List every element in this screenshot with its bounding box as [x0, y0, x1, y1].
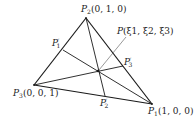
edge-p2-p3: [34, 18, 86, 85]
label-p3: P3(0, 0, 1): [13, 89, 59, 99]
interior-point-p: [97, 70, 100, 73]
vertex-p2: [85, 17, 87, 19]
label-p1: P1(1, 0, 0): [148, 107, 194, 117]
label-p2: P2(0, 1, 0): [81, 5, 127, 15]
vertex-p1: [151, 103, 153, 105]
label-interior-p: P(ξ1, ξ2, ξ3): [117, 27, 174, 36]
vertex-p3: [33, 84, 35, 86]
cevian-p3-p3prime: [34, 66, 123, 85]
cevian-p1-p1prime: [63, 50, 152, 104]
label-p3-prime: P′3: [124, 57, 132, 68]
label-p1-prime: P′1: [52, 38, 60, 49]
label-p2-prime: P′2: [100, 98, 108, 109]
